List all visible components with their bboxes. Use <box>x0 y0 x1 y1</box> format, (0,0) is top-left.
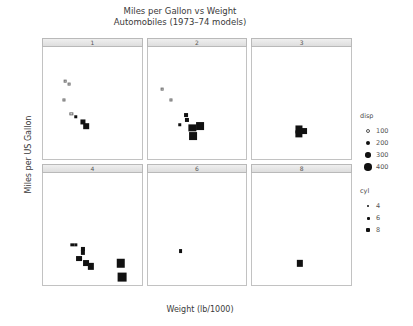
y-tick-mark <box>42 121 43 122</box>
legend-entry: 200 <box>360 137 412 149</box>
legend-entry-label: 8 <box>376 226 380 234</box>
facet-panel: 410203040246 <box>42 164 143 286</box>
x-tick-label: 2 <box>59 285 63 286</box>
data-point <box>178 123 181 126</box>
data-point <box>76 256 82 262</box>
legend-entry-label: 6 <box>376 214 380 222</box>
facet-panel: 8246 <box>251 164 352 286</box>
data-point <box>297 260 303 266</box>
legend-entry-label: 100 <box>376 127 388 135</box>
data-point <box>189 132 197 140</box>
data-point <box>74 115 77 118</box>
data-point <box>70 112 73 115</box>
x-tick-mark <box>307 285 308 286</box>
panel-plot-area: 10203040 <box>42 47 143 160</box>
y-axis-label: Miles per US Gallon <box>24 75 33 235</box>
facet-panel: 3 <box>251 38 352 160</box>
data-point <box>87 263 93 269</box>
panel-strip-label: 8 <box>251 164 352 173</box>
x-tick-mark <box>165 285 166 286</box>
panel-plot-area: 246 <box>251 173 352 286</box>
chart-subtitle: Automobiles (1973–74 models) <box>0 17 360 28</box>
legend-entry: 400 <box>360 161 412 173</box>
data-point <box>74 243 77 246</box>
legend-entry: 8 <box>360 224 412 236</box>
panel-strip-label: 3 <box>251 38 352 47</box>
data-point <box>185 118 189 122</box>
data-point <box>196 122 204 130</box>
x-tick-label: 4 <box>305 285 309 286</box>
legend-marker-icon <box>360 205 376 208</box>
facet-panel-grid: 1102030402341020304024662468246 <box>42 38 352 286</box>
legend-entry-label: 400 <box>376 163 388 171</box>
facet-panel: 110203040 <box>42 38 143 160</box>
y-tick-mark <box>42 90 43 91</box>
legend-marker-icon <box>360 228 376 232</box>
x-tick-label: 6 <box>237 285 241 286</box>
data-point <box>116 259 124 267</box>
x-tick-label: 4 <box>201 285 205 286</box>
panel-plot-area <box>147 47 248 160</box>
y-tick-mark <box>42 152 43 153</box>
panel-plot-area <box>251 47 352 160</box>
data-point <box>68 83 71 86</box>
x-tick-label: 4 <box>96 285 100 286</box>
legend-marker-icon <box>360 129 376 133</box>
legend-marker-icon <box>360 152 376 158</box>
data-point <box>64 80 67 83</box>
legend-marker-icon <box>360 217 376 220</box>
x-tick-label: 2 <box>164 285 168 286</box>
chart-title: Miles per Gallon vs Weight <box>0 6 360 17</box>
x-tick-label: 6 <box>342 285 346 286</box>
legend-disp-title: disp <box>360 112 412 120</box>
legend-marker-icon <box>360 163 376 171</box>
panel-strip-label: 6 <box>147 164 248 173</box>
chart-title-block: Miles per Gallon vs Weight Automobiles (… <box>0 6 360 28</box>
y-tick-mark <box>42 59 43 60</box>
y-tick-mark <box>42 185 43 186</box>
legend-cyl-title: cyl <box>360 187 412 195</box>
legend-entry-label: 200 <box>376 139 388 147</box>
legend-entry: 6 <box>360 212 412 224</box>
legend-disp: disp 100200300400 <box>360 112 412 173</box>
data-point <box>118 273 127 282</box>
legend-entry-label: 300 <box>376 151 388 159</box>
y-tick-mark <box>42 278 43 279</box>
y-tick-mark <box>42 247 43 248</box>
x-tick-mark <box>239 285 240 286</box>
data-point <box>295 130 302 137</box>
legend-entry: 300 <box>360 149 412 161</box>
chart-figure: Miles per Gallon vs Weight Automobiles (… <box>0 0 413 326</box>
data-point <box>81 250 85 254</box>
x-tick-mark <box>202 285 203 286</box>
data-point <box>179 249 183 253</box>
data-point <box>83 124 89 130</box>
legend-marker-icon <box>360 141 376 145</box>
panel-plot-area: 10203040246 <box>42 173 143 286</box>
data-point <box>161 88 164 91</box>
x-tick-mark <box>134 285 135 286</box>
x-tick-mark <box>343 285 344 286</box>
x-tick-mark <box>270 285 271 286</box>
x-tick-mark <box>61 285 62 286</box>
panel-strip-label: 1 <box>42 38 143 47</box>
panel-plot-area: 246 <box>147 173 248 286</box>
legend-cyl: cyl 468 <box>360 187 412 236</box>
x-tick-label: 6 <box>132 285 136 286</box>
data-point <box>184 114 188 118</box>
panel-strip-label: 2 <box>147 38 248 47</box>
data-point <box>62 98 65 101</box>
legend-container: disp 100200300400 cyl 468 <box>360 112 412 250</box>
facet-panel: 2 <box>147 38 248 160</box>
legend-entry: 100 <box>360 125 412 137</box>
legend-entry: 4 <box>360 200 412 212</box>
x-tick-label: 2 <box>269 285 273 286</box>
data-point <box>170 98 173 101</box>
facet-panel: 6246 <box>147 164 248 286</box>
y-tick-mark <box>42 216 43 217</box>
panel-strip-label: 4 <box>42 164 143 173</box>
legend-entry-label: 4 <box>376 202 380 210</box>
x-axis-label: Weight (lb/1000) <box>40 305 360 314</box>
x-tick-mark <box>97 285 98 286</box>
